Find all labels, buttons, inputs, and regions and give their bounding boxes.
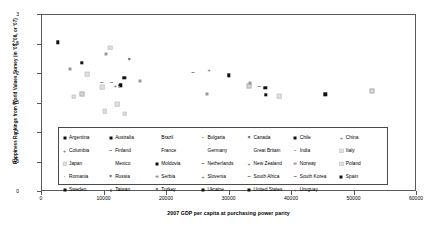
- legend-item-label: Uruguay: [300, 187, 318, 192]
- y-tick-label: 3: [1, 12, 19, 17]
- legend-item[interactable]: Moldovia: [154, 161, 200, 166]
- legend-item-label: Romania: [69, 174, 88, 179]
- legend-item-label: Russia: [115, 174, 130, 179]
- legend-item-label: Chile: [300, 135, 311, 140]
- legend-item[interactable]: Sweden: [62, 187, 108, 192]
- y-tick-label: 0: [1, 189, 19, 194]
- legend-item-label: Great Britain: [254, 148, 281, 153]
- legend-item-label: New Zealand: [254, 161, 282, 166]
- x-axis-title: 2007 GDP per capita at purchasing power …: [41, 210, 416, 216]
- legend-marker-icon: [154, 174, 159, 179]
- legend-item[interactable]: Norway: [293, 161, 339, 166]
- legend-item[interactable]: Italy: [339, 148, 385, 153]
- legend-item-label: Turkey: [161, 187, 175, 192]
- legend-marker-icon: +: [62, 148, 67, 153]
- legend-item-label: Finland: [115, 148, 131, 153]
- legend-marker-icon: [108, 187, 113, 192]
- legend-item[interactable]: Australia: [108, 135, 154, 140]
- x-tick-label: 30000: [209, 196, 249, 201]
- legend-item[interactable]: Great Britain: [247, 148, 293, 153]
- legend-item-label: Italy: [346, 148, 355, 153]
- legend-item-label: Germany: [207, 148, 227, 153]
- legend-marker-icon: [247, 187, 252, 192]
- legend-marker-icon: [200, 135, 205, 140]
- legend-item[interactable]: +New Zealand: [247, 161, 293, 166]
- legend-item[interactable]: India: [293, 148, 339, 153]
- legend-marker-icon: [247, 148, 252, 153]
- y-tick-label: 1: [1, 130, 19, 135]
- legend-marker-icon: [293, 135, 298, 140]
- legend-marker-icon: –: [108, 148, 113, 153]
- legend-item[interactable]: Bulgaria: [200, 135, 246, 140]
- x-tick-label: 40000: [271, 196, 311, 201]
- y-tick-label: 2.5: [1, 41, 19, 46]
- legend-marker-icon: ×: [247, 135, 252, 140]
- x-tick-label: 0: [21, 196, 61, 201]
- legend-item[interactable]: United States: [247, 187, 293, 192]
- legend-item[interactable]: Argentina: [62, 135, 108, 140]
- legend-item[interactable]: +Uruguay: [293, 187, 339, 192]
- legend-marker-icon: +: [339, 135, 344, 140]
- legend-item-label: Poland: [346, 161, 361, 166]
- legend-item[interactable]: Spain: [339, 174, 385, 179]
- legend-item[interactable]: Mexico: [108, 161, 154, 166]
- legend-marker-icon: [339, 148, 344, 153]
- legend-item[interactable]: Ukraine: [200, 187, 246, 192]
- y-tick-mark: [37, 162, 41, 163]
- legend-item-label: China: [346, 135, 359, 140]
- legend-item[interactable]: Taiwan: [108, 187, 154, 192]
- legend-marker-icon: [200, 187, 205, 192]
- legend-item[interactable]: Brazil: [154, 135, 200, 140]
- legend-item[interactable]: –Finland: [108, 148, 154, 153]
- legend-item[interactable]: –South Africa: [247, 174, 293, 179]
- y-tick-label: 0.5: [1, 159, 19, 164]
- x-tick-label: 20000: [146, 196, 186, 201]
- legend-item[interactable]: Serbia: [154, 174, 200, 179]
- legend-marker-icon: [293, 161, 298, 166]
- legend-item-label: Norway: [300, 161, 316, 166]
- chart-legend: ArgentinaAustraliaBrazilBulgaria×CanadaC…: [58, 127, 388, 185]
- legend-marker-icon: –: [247, 174, 252, 179]
- legend-item[interactable]: Japan: [62, 161, 108, 166]
- y-tick-mark: [37, 73, 41, 74]
- legend-item-label: Serbia: [161, 174, 175, 179]
- x-tick-mark: [41, 191, 42, 195]
- legend-item[interactable]: –Netherlands: [200, 161, 246, 166]
- legend-marker-icon: [62, 174, 67, 179]
- legend-item-label: Canada: [254, 135, 271, 140]
- legend-item[interactable]: ×Turkey: [154, 187, 200, 192]
- legend-item-label: Australia: [115, 135, 134, 140]
- legend-item[interactable]: +Columbia: [62, 148, 108, 153]
- legend-item-label: South Africa: [254, 174, 280, 179]
- legend-item[interactable]: ×Canada: [247, 135, 293, 140]
- legend-marker-icon: [154, 135, 159, 140]
- legend-item[interactable]: –South Korea: [293, 174, 339, 179]
- legend-item[interactable]: Poland: [339, 161, 385, 166]
- legend-item-label: Columbia: [69, 148, 89, 153]
- legend-item[interactable]: Germany: [200, 148, 246, 153]
- legend-marker-icon: [200, 148, 205, 153]
- legend-item[interactable]: Romania: [62, 174, 108, 179]
- legend-marker-icon: [293, 148, 298, 153]
- x-tick-label: 60000: [396, 196, 436, 201]
- legend-item-label: France: [161, 148, 176, 153]
- legend-item[interactable]: +Slovenia: [200, 174, 246, 179]
- x-tick-mark: [416, 191, 417, 195]
- y-tick-mark: [37, 14, 41, 15]
- legend-item-label: Mexico: [115, 161, 130, 166]
- legend-marker-icon: [154, 148, 159, 153]
- legend-item-label: United States: [254, 187, 283, 192]
- legend-marker-icon: ×: [108, 174, 113, 179]
- legend-item[interactable]: +China: [339, 135, 385, 140]
- legend-marker-icon: [339, 174, 344, 179]
- y-tick-mark: [37, 44, 41, 45]
- x-tick-label: 10000: [84, 196, 124, 201]
- legend-marker-icon: [108, 161, 113, 166]
- legend-item-label: Bulgaria: [207, 135, 225, 140]
- legend-item[interactable]: Chile: [293, 135, 339, 140]
- legend-item[interactable]: France: [154, 148, 200, 153]
- legend-item-label: Sweden: [69, 187, 86, 192]
- legend-item[interactable]: ×Russia: [108, 174, 154, 179]
- scatter-chart: Happiness Rankings from World Values Sur…: [0, 0, 438, 228]
- legend-item-label: Japan: [69, 161, 82, 166]
